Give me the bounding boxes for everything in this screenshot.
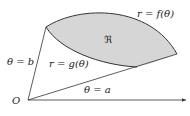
origin-label: O xyxy=(12,95,20,106)
polar-area-diagram: O θ = b θ = a r = f(θ) r = g(θ) ℜ xyxy=(0,0,190,116)
f-curve-label: r = f(θ) xyxy=(137,8,174,19)
g-curve-label: r = g(θ) xyxy=(49,58,89,69)
ray-a-label: θ = a xyxy=(84,84,111,95)
region-label: ℜ xyxy=(104,34,113,45)
ray-b-label: θ = b xyxy=(7,56,34,67)
